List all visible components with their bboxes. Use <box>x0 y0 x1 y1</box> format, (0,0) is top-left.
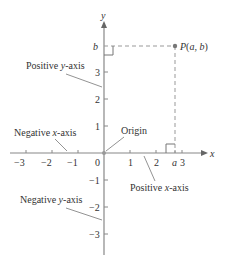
origin-leader <box>106 137 124 151</box>
x-axis-arrow-icon <box>201 150 208 156</box>
x-tick-labels: −3 −2 −1 0 1 2 3 a <box>14 157 185 168</box>
y-axis-arrow-icon <box>101 21 107 28</box>
negative-x-leader <box>55 139 67 151</box>
a-label: a <box>172 157 177 168</box>
svg-text:2: 2 <box>95 94 100 105</box>
origin-annotation: Origin <box>121 125 147 136</box>
coordinate-plane: x y −3 −2 −1 0 1 2 3 a 3 2 1 −1 −2 −3 b <box>0 0 228 260</box>
x-axis-label: x <box>209 148 215 159</box>
positive-y-annotation: Positive y-axis <box>26 60 85 71</box>
point-p-label: P(a, b) <box>179 41 208 53</box>
positive-x-annotation: Positive x-axis <box>130 182 189 193</box>
svg-text:−2: −2 <box>41 157 52 168</box>
svg-text:−1: −1 <box>89 175 100 186</box>
b-label: b <box>93 41 98 52</box>
svg-text:1: 1 <box>95 121 100 132</box>
svg-text:3: 3 <box>95 67 100 78</box>
right-angle-mark-x <box>166 144 175 153</box>
svg-text:−3: −3 <box>89 229 100 240</box>
y-axis-label: y <box>100 10 106 21</box>
negative-x-annotation: Negative x-axis <box>14 127 77 138</box>
svg-text:1: 1 <box>128 157 133 168</box>
y-tick-labels: 3 2 1 −1 −2 −3 b <box>89 41 100 240</box>
svg-text:3: 3 <box>180 157 185 168</box>
svg-text:−3: −3 <box>14 157 25 168</box>
svg-text:−2: −2 <box>89 202 100 213</box>
svg-text:−1: −1 <box>67 157 78 168</box>
origin-point <box>102 151 106 155</box>
negative-y-annotation: Negative y-axis <box>20 194 83 205</box>
right-angle-mark-y <box>104 46 113 55</box>
svg-text:0: 0 <box>95 157 100 168</box>
svg-text:2: 2 <box>154 157 159 168</box>
point-p <box>173 44 177 48</box>
